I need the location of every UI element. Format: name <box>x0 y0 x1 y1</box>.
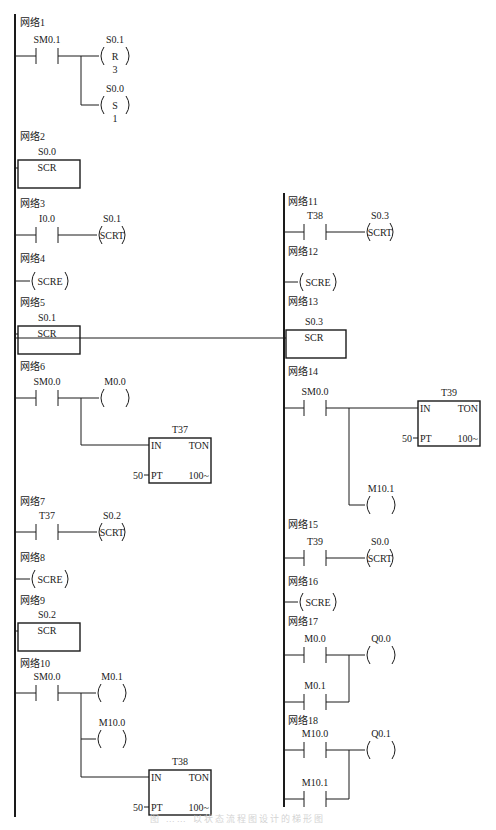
coil-operation: SCRT <box>368 553 392 564</box>
coil-operation: SCRT <box>368 227 392 238</box>
coil-address: S0.2 <box>103 510 121 521</box>
contact-m10-1: M10.1 <box>302 777 328 807</box>
contact-m0-1: M0.1 <box>304 680 326 710</box>
contact-address: SM0.0 <box>302 386 329 397</box>
coil-count: 3 <box>113 64 118 75</box>
network-label: 网络4 <box>20 252 45 264</box>
coil-paren-left <box>32 570 35 588</box>
network-label: 网络7 <box>20 495 45 507</box>
network-label: 网络18 <box>288 714 318 726</box>
contact-address: M10.0 <box>302 728 328 739</box>
coil-paren-left <box>98 730 101 748</box>
coil-m0-0: M0.0 <box>101 376 129 407</box>
network-label: 网络16 <box>288 575 318 587</box>
network-label: 网络15 <box>288 518 318 530</box>
scr-box-s0-2: S0.2SCR <box>15 609 80 651</box>
coil-operation: SCRT <box>100 230 124 241</box>
coil-operation: SCRT <box>100 527 124 538</box>
scr-address: S0.2 <box>38 609 56 620</box>
coil-s0-1: S0.1R3 <box>101 34 129 75</box>
network-label: 网络9 <box>20 594 45 606</box>
network-label: 网络13 <box>288 295 318 307</box>
scre-coil: SCRE <box>300 273 336 291</box>
coil-q0-0: Q0.0 <box>367 633 395 664</box>
network-label: 网络1 <box>20 16 45 28</box>
timer-t37: T37INTONPT100~50 <box>133 424 211 483</box>
coil-address: Q0.0 <box>371 633 391 644</box>
coil-address: M0.0 <box>104 376 125 387</box>
coil-address: M10.0 <box>99 717 125 728</box>
network-label: 网络11 <box>288 195 318 207</box>
network-15: 网络15T39S0.0SCRT <box>284 518 393 567</box>
coil-paren-left <box>367 741 370 759</box>
scr-label: SCR <box>38 328 57 339</box>
coil-paren-right <box>392 496 395 514</box>
network-label: 网络2 <box>20 130 45 142</box>
scr-address: S0.1 <box>38 312 56 323</box>
scr-address: S0.3 <box>305 316 323 327</box>
scr-box-s0-0: S0.0SCR <box>15 146 80 188</box>
network-16: 网络16SCRE <box>284 575 336 611</box>
network-7: 网络7T37S0.2SCRT <box>15 495 125 541</box>
timer-in-pin: IN <box>151 772 162 783</box>
coil-m0-1: M0.1 <box>98 671 126 702</box>
coil-s0-3: S0.3SCRT <box>367 210 393 241</box>
scre-coil: SCRE <box>32 272 68 290</box>
contact-m10-0: M10.0 <box>302 728 328 758</box>
power-rails <box>15 14 284 817</box>
timer-t39: T39INTONPT100~50 <box>402 387 480 446</box>
contact-sm0-0: SM0.0 <box>34 671 61 701</box>
timer-t38: T38INTONPT100~50 <box>133 756 211 815</box>
coil-paren-right <box>65 570 68 588</box>
scre-coil: SCRE <box>32 570 68 588</box>
coil-s0-0: S0.0S1 <box>101 83 129 124</box>
coil-paren-right <box>333 273 336 291</box>
coil-paren-right <box>126 96 129 114</box>
networks: 网络1SM0.1S0.1R3S0.0S1网络2S0.0SCR网络3I0.0S0.… <box>15 16 480 815</box>
coil-q0-1: Q0.1 <box>367 728 395 759</box>
timer-type: TON <box>189 772 209 783</box>
coil-paren-left <box>300 593 303 611</box>
network-label: 网络5 <box>20 296 45 308</box>
coil-count: 1 <box>113 113 118 124</box>
contact-address: M0.0 <box>304 633 325 644</box>
timer-in-pin: IN <box>420 403 431 414</box>
contact-address: M0.1 <box>304 680 325 691</box>
network-18: 网络18M10.0Q0.1M10.1 <box>284 714 395 807</box>
network-3: 网络3I0.0S0.1SCRT <box>15 197 125 244</box>
scr-box-s0-1: S0.1SCR <box>15 312 80 354</box>
coil-paren-left <box>367 496 370 514</box>
scre-label: SCRE <box>305 597 330 608</box>
scre-label: SCRE <box>37 276 62 287</box>
coil-paren-right <box>65 272 68 290</box>
coil-paren-left <box>101 389 104 407</box>
contact-address: SM0.1 <box>34 34 61 45</box>
coil-s0-0: S0.0SCRT <box>367 536 393 567</box>
contact-address: T37 <box>39 510 55 521</box>
network-1: 网络1SM0.1S0.1R3S0.0S1 <box>15 16 129 124</box>
figure-caption: 图 …… 以状态流程图设计的梯形图 <box>150 812 410 826</box>
network-17: 网络17M0.0Q0.0M0.1 <box>284 615 395 710</box>
network-label: 网络8 <box>20 551 45 563</box>
contact-address: T39 <box>307 536 323 547</box>
timer-base: 100~ <box>458 433 479 444</box>
coil-address: M0.1 <box>101 671 122 682</box>
network-label: 网络17 <box>288 615 318 627</box>
coil-operation: S <box>112 100 118 111</box>
timer-address: T39 <box>441 387 457 398</box>
coil-m10-0: M10.0 <box>98 717 126 748</box>
contact-address: T38 <box>307 210 323 221</box>
coil-paren-right <box>392 646 395 664</box>
coil-paren-right <box>123 730 126 748</box>
coil-paren-left <box>367 646 370 664</box>
coil-address: S0.0 <box>106 83 124 94</box>
coil-address: S0.0 <box>371 536 389 547</box>
network-11: 网络11T38S0.3SCRT <box>284 195 393 241</box>
coil-operation: R <box>112 51 119 62</box>
timer-type: TON <box>189 440 209 451</box>
timer-preset: 50 <box>133 802 143 813</box>
network-5: 网络5S0.1SCR <box>15 296 80 354</box>
network-9: 网络9S0.2SCR <box>15 594 80 651</box>
coil-address: S0.3 <box>371 210 389 221</box>
coil-paren-left <box>98 684 101 702</box>
